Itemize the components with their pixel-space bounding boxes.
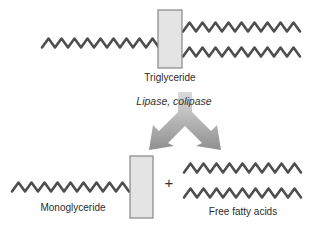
plus-sign: +: [165, 177, 174, 188]
monoglyceride-glycerol-backbone: [130, 156, 153, 218]
enzyme-label: Lipase, colipase: [136, 96, 211, 107]
fatty-acid-chains: [12, 23, 301, 198]
diagram-canvas: [0, 0, 312, 230]
fatty-acid-chain: [184, 164, 301, 173]
fatty-acid-chain: [42, 39, 159, 48]
monoglyceride-label: Monoglyceride: [40, 202, 105, 213]
free-fatty-acids-label: Free fatty acids: [209, 206, 277, 217]
fatty-acid-chain: [183, 48, 300, 57]
lipolysis-diagram: Triglyceride Lipase, colipase Monoglycer…: [0, 0, 312, 230]
triglyceride-glycerol-backbone: [158, 10, 182, 68]
triglyceride-label: Triglyceride: [144, 72, 195, 83]
fatty-acid-chain: [12, 183, 129, 192]
fatty-acid-chain: [183, 23, 300, 32]
fatty-acid-chain: [184, 189, 301, 198]
